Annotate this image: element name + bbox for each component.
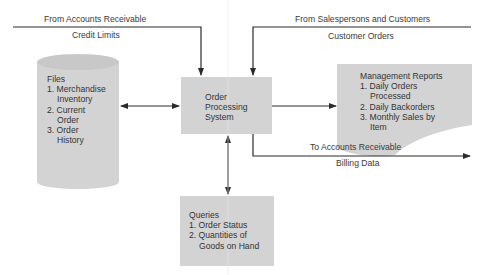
queries-text: Queries 1. Order Status 2. Quantities of…: [189, 210, 259, 251]
customer-orders-label: Customer Orders: [328, 31, 394, 41]
reports-title: Management Reports: [360, 71, 443, 81]
files-text: Files 1. Merchandise Inventory 2. Curren…: [47, 74, 106, 145]
files-title: Files: [47, 74, 106, 84]
ar-destination-label: To Accounts Receivable: [310, 142, 401, 152]
billing-data-label: Billing Data: [336, 158, 379, 168]
order-processing-text: Order Processing System: [205, 92, 248, 123]
customers-source-label: From Salespersons and Customers: [295, 14, 430, 24]
credit-limits-label: Credit Limits: [72, 30, 120, 40]
queries-title: Queries: [189, 210, 259, 220]
management-reports-text: Management Reports 1. Daily Orders Proce…: [360, 71, 443, 132]
ar-source-label: From Accounts Receivable: [44, 14, 146, 24]
